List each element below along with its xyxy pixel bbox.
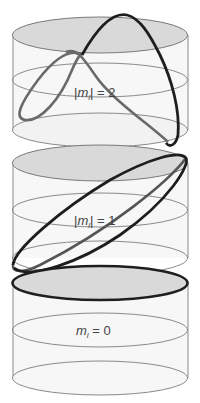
bottom-ellipse	[13, 361, 188, 395]
cylinder-ml-0: ml = 0	[13, 266, 189, 395]
label-ml-1: |ml| = 1	[74, 213, 115, 230]
cylinder-ml-1: |ml| = 1	[13, 145, 189, 275]
label-ml-2: |ml| = 2	[74, 85, 115, 102]
angular-momentum-diagram: |ml| = 2 |ml| = 1 ml = 0	[0, 0, 200, 403]
label-ml-0: ml = 0	[76, 323, 111, 340]
cylinder-ml-2: |ml| = 2	[13, 15, 189, 147]
bottom-ellipse	[13, 113, 188, 147]
top-cap-orbit	[13, 266, 188, 300]
top-cap	[13, 145, 188, 181]
top-cap	[13, 17, 188, 53]
